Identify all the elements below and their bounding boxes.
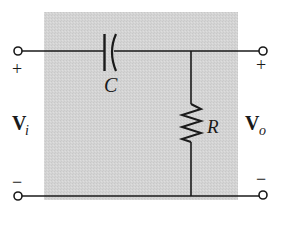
shaded-network-region <box>44 12 238 200</box>
input-positive-terminal <box>14 47 22 55</box>
output-minus-sign: − <box>256 169 266 189</box>
input-minus-sign: − <box>12 172 22 192</box>
input-plus-sign: + <box>12 59 22 79</box>
input-negative-terminal <box>14 192 22 200</box>
circuit-svg: C R + − + − V i V o <box>0 0 296 239</box>
output-voltage-subscript: o <box>259 123 266 138</box>
output-negative-terminal <box>259 191 267 199</box>
input-voltage-subscript: i <box>25 123 29 138</box>
circuit-diagram: C R + − + − V i V o <box>0 0 296 239</box>
output-voltage-label: V <box>245 112 260 134</box>
output-plus-sign: + <box>256 55 266 75</box>
resistor-label: R <box>206 116 219 137</box>
output-positive-terminal <box>259 47 267 55</box>
capacitor-label: C <box>104 74 118 96</box>
